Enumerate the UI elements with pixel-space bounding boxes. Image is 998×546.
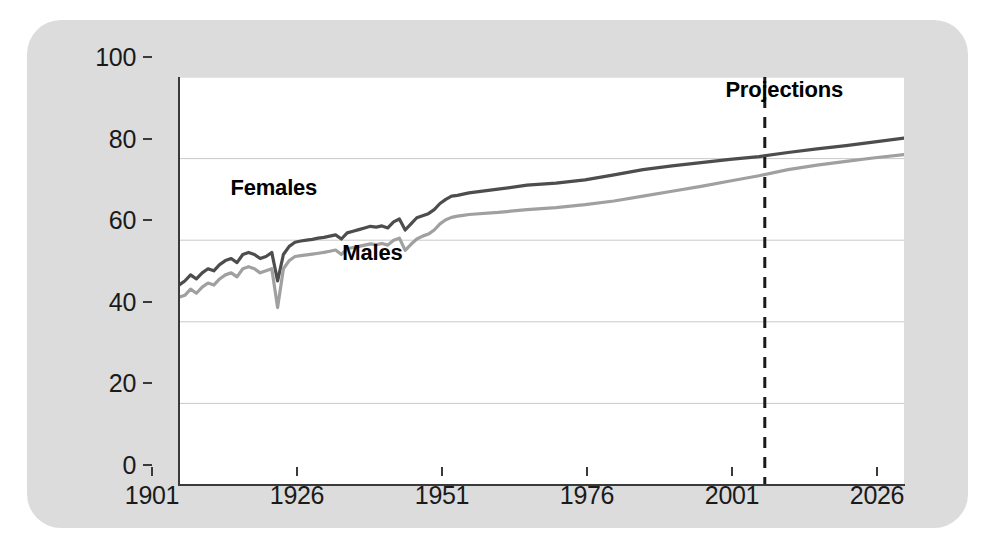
x-tick-label-1951: 1951: [415, 481, 469, 510]
annotation-males: Males: [342, 240, 402, 266]
y-tick-mark-0: [143, 464, 152, 466]
figure-root: 020406080100 190119261951197620012026 Fe…: [0, 0, 998, 546]
x-tick-mark-1901: [151, 467, 153, 476]
plot-area: [179, 77, 904, 485]
gridlines-group: [179, 77, 904, 403]
x-tick-mark-1951: [441, 467, 443, 476]
y-tick-label-60: 60: [27, 206, 136, 235]
y-tick-label-20: 20: [27, 369, 136, 398]
y-tick-mark-40: [143, 301, 152, 303]
y-tick-mark-100: [143, 56, 152, 58]
annotation-females: Females: [230, 175, 317, 201]
x-tick-mark-1926: [296, 467, 298, 476]
plot-svg: [179, 77, 904, 485]
x-tick-label-2001: 2001: [705, 481, 759, 510]
x-tick-label-2026: 2026: [850, 481, 904, 510]
y-tick-mark-20: [143, 382, 152, 384]
x-tick-mark-2026: [876, 467, 878, 476]
x-tick-label-1901: 1901: [125, 481, 179, 510]
x-tick-mark-2001: [731, 467, 733, 476]
annotation-projections: Projections: [725, 77, 843, 103]
x-tick-label-1976: 1976: [560, 481, 614, 510]
y-tick-mark-80: [143, 138, 152, 140]
y-tick-label-0: 0: [27, 451, 136, 480]
x-tick-mark-1976: [586, 467, 588, 476]
chart-panel: 020406080100 190119261951197620012026 Fe…: [27, 20, 968, 528]
y-tick-label-100: 100: [27, 43, 136, 72]
x-tick-label-1926: 1926: [270, 481, 324, 510]
y-tick-label-80: 80: [27, 124, 136, 153]
y-tick-mark-60: [143, 219, 152, 221]
series-lines-group: [179, 138, 904, 307]
y-axis-line: [178, 77, 180, 486]
y-tick-label-40: 40: [27, 287, 136, 316]
